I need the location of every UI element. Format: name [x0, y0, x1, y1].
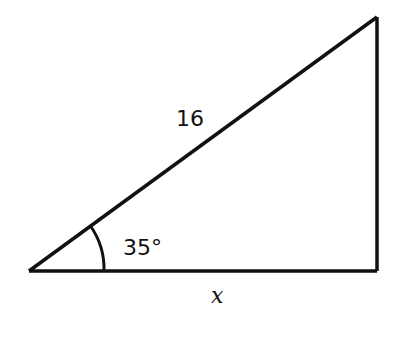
- angle-label: 35°: [123, 235, 162, 260]
- right-triangle-diagram: 16 35° x: [0, 0, 398, 347]
- base-label: x: [211, 283, 224, 308]
- angle-arc: [91, 226, 105, 271]
- hypotenuse-side: [29, 17, 377, 271]
- triangle: [29, 17, 377, 271]
- hypotenuse-label: 16: [176, 106, 204, 131]
